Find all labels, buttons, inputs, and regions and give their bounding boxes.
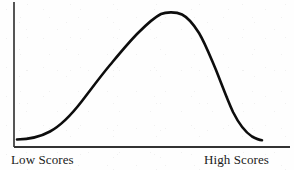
x-axis-low-label: Low Scores	[11, 153, 74, 166]
bell-curve-figure: Low Scores High Scores	[0, 0, 294, 170]
bell-curve-path	[17, 12, 262, 140]
distribution-plot	[0, 0, 294, 170]
x-axis-high-label: High Scores	[204, 153, 269, 166]
